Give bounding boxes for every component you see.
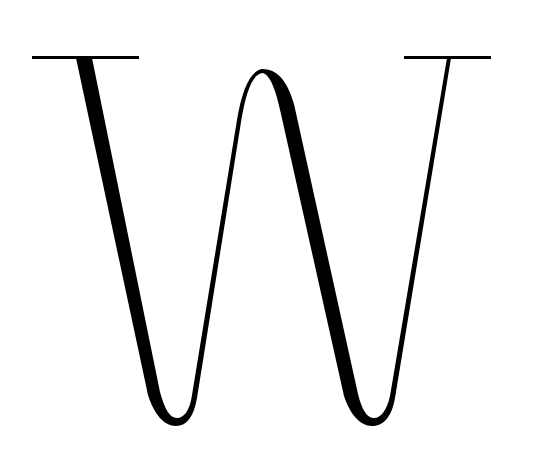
right-bowl-stroke — [262, 58, 451, 426]
left-bowl-stroke — [76, 58, 262, 426]
letter-w-glyph — [0, 0, 536, 462]
